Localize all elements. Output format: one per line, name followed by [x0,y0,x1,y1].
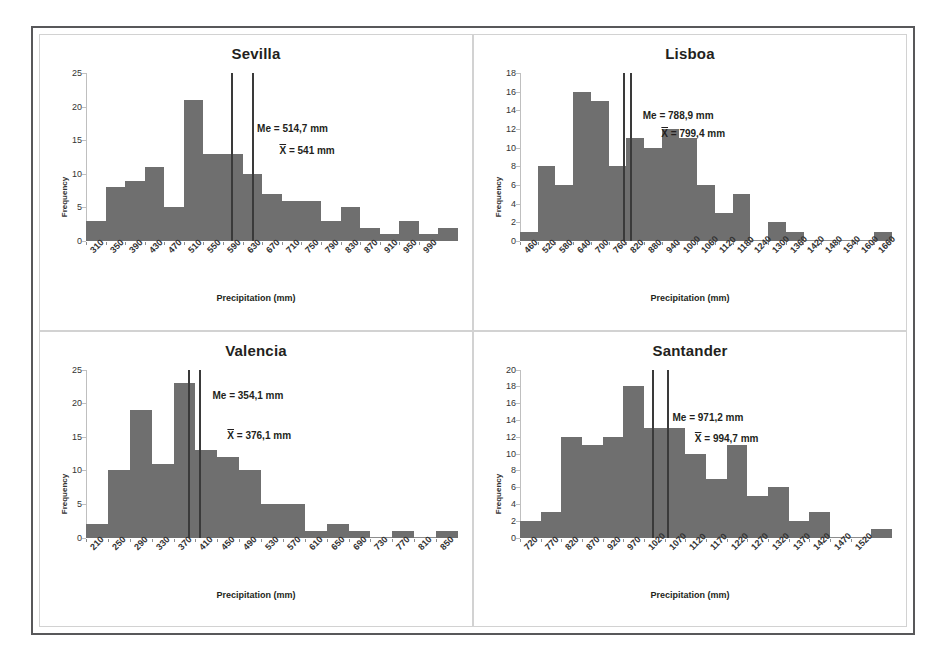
x-tick-mark [86,539,87,542]
x-tick-mark [591,242,592,245]
histogram-bar [747,496,768,538]
histogram-bar [301,201,321,241]
bar-series-sevilla [86,73,458,241]
x-tick-mark [360,242,361,245]
chart-panel-grid: SevillaFrequency0510152025Me = 514,7 mmX… [39,34,907,627]
x-tick-mark [727,539,728,542]
x-tick-mark [305,539,306,542]
y-tick-label: 16 [506,87,516,97]
mean-symbol: X [227,430,234,441]
x-tick-mark [609,242,610,245]
x-tick-mark [662,242,663,245]
x-tick-mark [341,242,342,245]
y-tick-label: 20 [72,102,82,112]
plot-wrap-sevilla: Frequency0510152025Me = 514,7 mmX = 541 … [40,65,472,330]
median-line [231,73,233,241]
plot-area-valencia: Me = 354,1 mmX = 376,1 mm [86,370,458,538]
x-tick-mark [239,539,240,542]
bar-series-santander [520,370,892,538]
x-tick-mark [541,539,542,542]
x-tick-mark [582,539,583,542]
histogram-bar [555,185,573,241]
plot-area-sevilla: Me = 514,7 mmX = 541 mm [86,73,458,241]
x-tick-mark [145,242,146,245]
x-tick-mark [283,539,284,542]
chart-panel-sevilla: SevillaFrequency0510152025Me = 514,7 mmX… [39,34,473,331]
x-tick-mark [349,539,350,542]
histogram-bar [108,470,130,537]
x-tick-mark [203,242,204,245]
x-tick-mark [321,242,322,245]
median-annotation: Me = 971,2 mm [673,412,744,423]
x-tick-mark [301,242,302,245]
x-axis-label-valencia: Precipitation (mm) [40,590,472,600]
x-tick-mark [262,242,263,245]
y-tick-column-sevilla: 0510152025 [56,65,82,251]
y-tick-label: 15 [72,135,82,145]
chart-title-santander: Santander [474,342,906,359]
median-annotation: Me = 788,9 mm [643,110,714,121]
x-tick-mark [733,242,734,245]
y-tick-label: 14 [506,105,516,115]
x-tick-mark [626,242,627,245]
bar-series-lisboa [520,73,892,241]
histogram-bar [438,228,458,241]
plot-area-lisboa: Me = 788,9 mmX = 799,4 mm [520,73,892,241]
histogram-bar [644,428,665,537]
plot-wrap-valencia: Frequency0510152025Me = 354,1 mmX = 376,… [40,362,472,627]
histogram-bar [341,207,361,241]
histogram-bar [697,185,715,241]
x-axis-label-santander: Precipitation (mm) [474,590,906,600]
x-tick-mark [399,242,400,245]
mean-line [667,370,669,538]
x-tick-mark [152,539,153,542]
y-tick-label: 10 [506,143,516,153]
y-tick-label: 20 [506,365,516,375]
mean-value-text: = 994,7 mm [704,433,758,444]
histogram-bar [125,181,145,241]
x-tick-mark [370,539,371,542]
x-tick-mark [108,539,109,542]
x-tick-mark [715,242,716,245]
x-tick-mark [125,242,126,245]
histogram-bar [541,512,562,537]
x-tick-mark [86,242,87,245]
x-tick-mark [623,539,624,542]
x-tick-mark [164,242,165,245]
x-tick-mark [380,242,381,245]
histogram-bar [679,138,697,241]
histogram-bar [644,148,662,241]
y-tick-column-lisboa: 024681012141618 [490,65,516,251]
figure-page: SevillaFrequency0510152025Me = 514,7 mmX… [0,0,946,668]
x-tick-mark [243,242,244,245]
histogram-bar [283,504,305,538]
x-tick-mark [419,242,420,245]
histogram-bar [217,457,239,538]
x-tick-mark [436,539,437,542]
histogram-bar [399,221,419,241]
x-tick-row-lisboa: 4605205806407007608208809401000106011201… [520,242,892,290]
plot-wrap-lisboa: Frequency024681012141618Me = 788,9 mmX =… [474,65,906,330]
x-tick-row-santander: 7207708208709209701020107011201170122012… [520,539,892,587]
x-tick-mark [327,539,328,542]
chart-panel-santander: SantanderFrequency02468101214161820Me = … [473,331,907,628]
histogram-bar [603,437,624,538]
histogram-bar [538,166,556,241]
plot-wrap-santander: Frequency02468101214161820Me = 971,2 mmX… [474,362,906,627]
histogram-bar [184,100,204,241]
x-tick-mark [106,242,107,245]
x-tick-mark [768,242,769,245]
histogram-bar [573,92,591,241]
mean-symbol: X [661,128,668,139]
x-tick-mark [538,242,539,245]
y-tick-label: 12 [506,432,516,442]
mean-annotation: X = 541 mm [279,145,334,156]
x-tick-mark [561,539,562,542]
histogram-bar [685,454,706,538]
x-axis-label-sevilla: Precipitation (mm) [40,293,472,303]
histogram-bar [239,470,261,537]
x-tick-mark [392,539,393,542]
mean-annotation: X = 376,1 mm [227,430,291,441]
y-tick-label: 10 [506,449,516,459]
histogram-bar [623,386,644,537]
